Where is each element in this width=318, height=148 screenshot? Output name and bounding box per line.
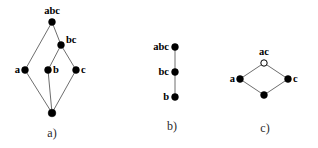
panel-c bbox=[237, 60, 292, 99]
node-label-a-b: b bbox=[53, 65, 59, 76]
panel-b bbox=[172, 44, 179, 101]
edge-a-a-bc-a-c bbox=[61, 45, 76, 70]
node-label-a-bc: bc bbox=[66, 35, 77, 46]
node-a-bottom[interactable] bbox=[48, 109, 56, 117]
edge-c-c-a-c-bottom bbox=[240, 79, 264, 95]
edge-a-a-a-a-bottom bbox=[25, 70, 52, 113]
node-a-a[interactable] bbox=[22, 67, 29, 74]
node-b-bc[interactable] bbox=[172, 69, 179, 76]
edge-a-a-b-a-bottom bbox=[48, 70, 52, 113]
node-a-top[interactable] bbox=[49, 19, 56, 26]
node-label-c-c: c bbox=[293, 74, 298, 85]
node-a-bc[interactable] bbox=[58, 42, 65, 49]
panel-caption-c: c) bbox=[260, 121, 269, 136]
node-b-b[interactable] bbox=[172, 94, 179, 101]
node-label-b-b: b bbox=[163, 92, 169, 103]
node-label-a-c: c bbox=[81, 65, 86, 76]
node-c-ac[interactable] bbox=[261, 60, 267, 66]
node-c-a[interactable] bbox=[237, 76, 244, 83]
edge-c-c-ac-c-c bbox=[264, 63, 288, 79]
node-label-a-a: a bbox=[15, 65, 20, 76]
node-label-c-ac: ac bbox=[259, 47, 269, 58]
figure-container: abcbcabca)abcbcbb)acacc) bbox=[0, 0, 318, 148]
node-label-c-a: a bbox=[230, 74, 235, 85]
node-label-a-top: abc bbox=[44, 6, 60, 17]
panel-caption-a: a) bbox=[47, 126, 56, 141]
node-b-abc[interactable] bbox=[172, 44, 179, 51]
panel-caption-b: b) bbox=[167, 119, 177, 134]
edge-c-c-ac-c-a bbox=[240, 63, 264, 79]
node-a-c[interactable] bbox=[73, 67, 80, 74]
edge-a-a-top-a-bc bbox=[52, 22, 61, 45]
edge-a-a-c-a-bottom bbox=[52, 70, 76, 113]
node-label-b-abc: abc bbox=[153, 42, 169, 53]
edge-c-c-c-c-bottom bbox=[264, 79, 288, 95]
node-c-c[interactable] bbox=[285, 76, 292, 83]
node-c-bottom[interactable] bbox=[261, 92, 268, 99]
node-label-b-bc: bc bbox=[159, 67, 170, 78]
edge-a-a-top-a-a bbox=[25, 22, 52, 70]
node-a-b[interactable] bbox=[45, 67, 52, 74]
